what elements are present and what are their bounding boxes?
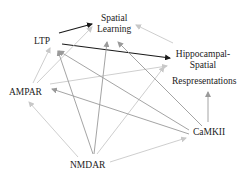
edge-camkii-to-ampar xyxy=(52,89,189,134)
edge-hippocampal-to-spatial_learning xyxy=(136,25,173,43)
node-nmdar: NMDAR xyxy=(70,160,105,171)
node-nmdar-label: NMDAR xyxy=(70,160,105,170)
edge-layer xyxy=(29,24,208,162)
node-hippocampal-spatial-representations: Hippocampal- Spatial Respresentations xyxy=(172,49,234,87)
edge-ltp-to-hippocampal xyxy=(62,44,170,58)
edge-nmdar-to-ltp xyxy=(58,51,93,154)
node-spatial-learning-line2: Learning xyxy=(97,24,131,35)
edge-ampar-to-ltp xyxy=(33,48,50,83)
node-spatial-learning: Spatial Learning xyxy=(97,13,131,35)
node-hippocampal-line3: Respresentations xyxy=(172,76,234,87)
node-spatial-learning-line1: Spatial xyxy=(97,13,131,24)
node-ampar: AMPAR xyxy=(9,87,42,98)
node-hippocampal-line2: Spatial xyxy=(172,60,234,71)
node-ampar-label: AMPAR xyxy=(9,87,42,97)
node-camkii-label: CaMKII xyxy=(193,127,225,137)
edge-nmdar-to-ampar xyxy=(29,102,78,157)
edge-nmdar-to-camkii xyxy=(110,138,186,162)
node-ltp: LTP xyxy=(34,36,50,47)
edge-nmdar-to-spatial_learning xyxy=(94,42,107,154)
node-ltp-label: LTP xyxy=(34,36,50,46)
node-hippocampal-line1: Hippocampal- xyxy=(172,49,234,60)
node-camkii: CaMKII xyxy=(193,127,225,138)
edge-camkii-to-ltp xyxy=(59,51,189,130)
